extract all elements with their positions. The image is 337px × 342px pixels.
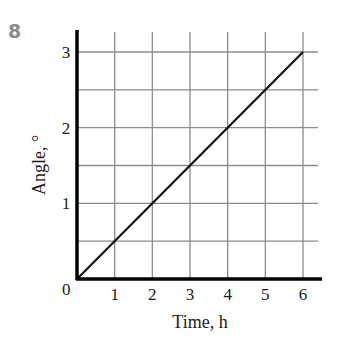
x-tick-label: 6 [299,285,308,304]
x-axis-title: Time, h [172,312,227,332]
y-axis-title: Angle, ° [29,135,49,195]
x-tick-label: 4 [223,285,232,304]
x-tick-label: 3 [186,285,195,304]
y-tick-label: 2 [62,119,71,138]
y-tick-label: 1 [62,194,71,213]
origin-label: 0 [62,280,71,299]
line-chart: 123456 123 0 Time, h Angle, ° [0,0,337,342]
y-tick-label: 3 [62,43,71,62]
x-tick-label: 2 [148,285,157,304]
y-tick-labels: 123 [62,43,71,213]
x-tick-label: 1 [110,285,119,304]
x-tick-label: 5 [261,285,270,304]
x-tick-labels: 123456 [110,285,307,304]
